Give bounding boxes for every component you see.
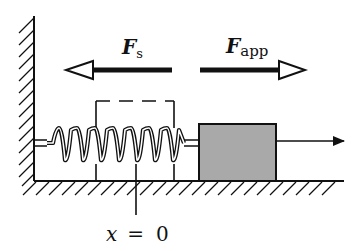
applied-force-label: Fapp [225,34,268,60]
block [199,124,276,181]
floor [23,181,344,195]
spring-force-diagram: Fs Fapp x=0 [0,0,364,251]
spring [34,128,199,160]
equilibrium-label: x=0 [106,222,169,246]
applied-force-arrow [200,61,305,79]
wall [19,16,34,186]
spring-force-label: Fs [121,35,143,61]
spring-force-arrow [66,61,172,79]
